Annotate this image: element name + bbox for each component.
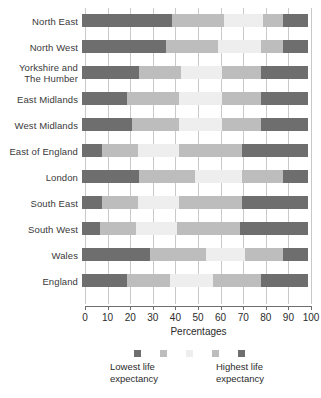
- x-tick: [243, 306, 244, 310]
- row-label: Wales: [0, 250, 82, 261]
- stacked-bar: [82, 274, 308, 287]
- bar-area: [82, 242, 308, 268]
- legend-label-lowest-line2: expectancy: [110, 373, 158, 384]
- bar-segment: [283, 248, 308, 261]
- legend-swatch: [186, 350, 193, 357]
- row-label-line1: North West: [30, 42, 78, 53]
- x-axis-title: Percentages: [85, 326, 312, 337]
- bar-segment: [177, 222, 240, 235]
- x-tick: [153, 306, 154, 310]
- x-axis-tick-labels: 0102030405060708090100: [0, 312, 321, 326]
- stacked-bar: [82, 222, 308, 235]
- x-tick: [266, 306, 267, 310]
- chart-row: Yorkshire andThe Humber: [0, 60, 321, 86]
- chart-row: London: [0, 164, 321, 190]
- x-tick-label: 70: [238, 312, 249, 324]
- legend: Lowest life expectancy Highest life expe…: [0, 348, 321, 398]
- row-label: North West: [0, 42, 82, 53]
- bar-segment: [179, 196, 242, 209]
- bar-segment: [206, 248, 244, 261]
- bar-segment: [261, 92, 308, 105]
- x-tick-label: 20: [125, 312, 136, 324]
- stacked-bar: [82, 170, 308, 183]
- bar-segment: [102, 196, 138, 209]
- chart-row: North East: [0, 8, 321, 34]
- stacked-bar: [82, 40, 308, 53]
- plot-area: North EastNorth WestYorkshire andThe Hum…: [0, 0, 321, 316]
- bar-segment: [82, 222, 100, 235]
- x-tick-label: 30: [147, 312, 158, 324]
- bar-segment: [100, 222, 136, 235]
- legend-label-lowest-line1: Lowest life: [110, 361, 155, 372]
- bar-area: [82, 138, 308, 164]
- bar-area: [82, 34, 308, 60]
- bar-segment: [283, 40, 308, 53]
- x-tick-label: 60: [215, 312, 226, 324]
- bar-segment: [127, 274, 170, 287]
- row-label-line1: Yorkshire and: [19, 62, 78, 73]
- x-tick: [130, 306, 131, 310]
- legend-label-highest-line1: Highest life: [216, 361, 263, 372]
- legend-swatch: [160, 350, 167, 357]
- row-label: England: [0, 276, 82, 287]
- bar-segment: [263, 14, 283, 27]
- bar-area: [82, 60, 308, 86]
- x-tick-label: 0: [82, 312, 88, 324]
- bar-segment: [179, 144, 242, 157]
- bar-segment: [261, 274, 308, 287]
- bar-area: [82, 190, 308, 216]
- bar-segment: [218, 40, 261, 53]
- bar-segment: [138, 196, 179, 209]
- x-tick: [85, 306, 86, 310]
- legend-label-lowest: Lowest life expectancy: [110, 361, 158, 384]
- bar-area: [82, 164, 308, 190]
- bar-segment: [242, 196, 308, 209]
- stacked-bar: [82, 118, 308, 131]
- legend-swatch: [212, 350, 219, 357]
- chart-row: England: [0, 268, 321, 294]
- row-label-line1: London: [46, 172, 78, 183]
- row-label-line1: East of England: [9, 146, 78, 157]
- x-tick-label: 50: [192, 312, 203, 324]
- bar-segment: [240, 222, 308, 235]
- row-label: Yorkshire andThe Humber: [0, 62, 82, 84]
- x-tick: [198, 306, 199, 310]
- stacked-bar: [82, 248, 308, 261]
- stacked-bar: [82, 14, 308, 27]
- bar-segment: [139, 66, 182, 79]
- row-label-line1: East Midlands: [17, 94, 78, 105]
- bar-segment: [283, 14, 308, 27]
- row-label-line1: England: [42, 276, 78, 287]
- row-label-line2: The Humber: [0, 73, 78, 84]
- bar-segment: [222, 66, 260, 79]
- row-label: London: [0, 172, 82, 183]
- bar-segment: [136, 222, 177, 235]
- row-label: West Midlands: [0, 120, 82, 131]
- bar-segment: [82, 144, 102, 157]
- bar-segment: [166, 40, 218, 53]
- chart-row: Wales: [0, 242, 321, 268]
- stacked-bar: [82, 196, 308, 209]
- bar-segment: [82, 40, 166, 53]
- x-tick-label: 10: [102, 312, 113, 324]
- bar-segment: [181, 66, 222, 79]
- bar-segment: [222, 118, 260, 131]
- bar-area: [82, 86, 308, 112]
- bar-segment: [242, 144, 308, 157]
- stacked-bar: [82, 144, 308, 157]
- bar-segment: [127, 92, 179, 105]
- x-tick-label: 80: [260, 312, 271, 324]
- bar-segment: [261, 40, 284, 53]
- legend-swatch: [238, 350, 245, 357]
- bar-segment: [82, 248, 150, 261]
- x-tick: [221, 306, 222, 310]
- legend-label-highest-line2: expectancy: [216, 373, 264, 384]
- bar-segment: [82, 14, 172, 27]
- row-label: North East: [0, 16, 82, 27]
- chart-row: East of England: [0, 138, 321, 164]
- bar-segment: [213, 274, 260, 287]
- row-label-line1: North East: [32, 16, 78, 27]
- row-label-line1: West Midlands: [15, 120, 78, 131]
- row-label: South West: [0, 224, 82, 235]
- bar-segment: [283, 170, 308, 183]
